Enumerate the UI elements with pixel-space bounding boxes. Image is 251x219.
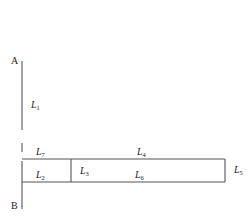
segment-label-l6: L6 <box>134 169 145 181</box>
path-diagram: A B L1 L7 L4 L2 L3 L6 L5 <box>0 0 251 219</box>
segment-label-l3: L3 <box>79 165 89 177</box>
segment-label-l4: L4 <box>136 146 147 158</box>
point-label-b: B <box>11 200 18 211</box>
segment-label-l2: L2 <box>35 169 45 181</box>
segment-label-l1: L1 <box>30 99 40 111</box>
segment-label-l5: L5 <box>233 164 243 176</box>
point-label-a: A <box>11 55 19 66</box>
segment-label-l7: L7 <box>35 146 46 158</box>
